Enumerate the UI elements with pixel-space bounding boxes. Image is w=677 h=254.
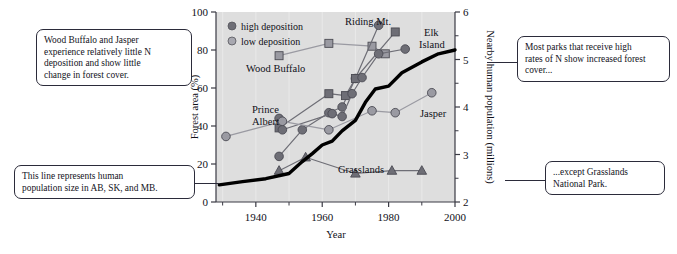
tick-label-right: 5 xyxy=(463,54,469,66)
data-marker-circle xyxy=(374,50,383,59)
x-axis-ticks: 1940196019802000 xyxy=(223,202,467,223)
data-marker-circle xyxy=(278,117,287,126)
legend-marker-low-deposition xyxy=(228,37,236,45)
leader-line-botleft xyxy=(193,183,219,184)
tick-label-left: 100 xyxy=(192,6,209,18)
tick-label-right: 2 xyxy=(463,196,469,208)
data-marker-circle xyxy=(348,89,357,98)
data-marker-square xyxy=(325,39,333,47)
series-label-elk-island: Island xyxy=(419,39,445,50)
callout-high-n-increased-cover: Most parks that receive high rates of N … xyxy=(517,36,670,82)
callout-population-line: This line represents human population si… xyxy=(14,165,195,199)
data-marker-square xyxy=(325,90,333,98)
tick-label-right: 6 xyxy=(463,6,469,18)
leader-line-topright xyxy=(487,62,519,63)
data-marker-circle xyxy=(358,73,367,82)
data-marker-circle xyxy=(427,88,436,97)
series-label-prince-albert: Prince xyxy=(252,104,279,115)
callout-line: deposition and show little xyxy=(44,58,184,70)
data-marker-circle xyxy=(325,126,334,135)
tick-label-x: 1940 xyxy=(245,211,268,223)
tick-label-x: 2000 xyxy=(444,211,467,223)
callout-grasslands-exception: ...except Grasslands National Park. xyxy=(545,161,665,195)
data-marker-circle xyxy=(222,132,231,141)
data-marker-circle xyxy=(328,109,337,118)
callout-line: experience relatively little N xyxy=(44,47,184,59)
figure-container: 020406080100 23456 1940196019802000 Wood… xyxy=(0,0,677,254)
data-marker-square xyxy=(391,28,399,36)
data-marker-circle xyxy=(368,107,377,116)
tick-label-left: 0 xyxy=(203,196,209,208)
tick-label-right: 3 xyxy=(463,149,469,161)
series-label-grasslands: Grasslands xyxy=(338,164,384,175)
leader-line-botright xyxy=(505,180,547,181)
data-marker-circle xyxy=(338,112,347,121)
tick-label-left: 80 xyxy=(197,44,209,56)
callout-line: Most parks that receive high xyxy=(525,42,662,54)
series-label-wood-buffalo: Wood Buffalo xyxy=(246,63,305,74)
data-marker-circle xyxy=(401,45,410,54)
tick-label-x: 1960 xyxy=(311,211,334,223)
series-label-jasper: Jasper xyxy=(420,108,447,119)
tick-label-x: 1980 xyxy=(378,211,401,223)
data-marker-circle xyxy=(278,126,287,135)
callout-line: cover... xyxy=(525,65,662,77)
series-label-elk-island: Elk xyxy=(424,27,439,38)
callout-wood-buffalo-jasper: Wood Buffalo and Jasper experience relat… xyxy=(36,29,192,86)
tick-label-left: 20 xyxy=(197,158,209,170)
y2-axis-title: Nearby human population (millions) xyxy=(484,30,496,184)
tick-label-right: 4 xyxy=(463,101,469,113)
callout-line: change in forest cover. xyxy=(44,70,184,82)
callout-line: population size in AB, SK, and MB. xyxy=(22,183,187,195)
callout-line: ...except Grasslands xyxy=(553,167,657,179)
callout-line: National Park. xyxy=(553,179,657,191)
right-axis-ticks: 23456 xyxy=(455,6,469,208)
x-axis-title: Year xyxy=(326,229,346,240)
data-marker-circle xyxy=(298,126,307,135)
y-axis-title: Forest area (%) xyxy=(189,74,201,139)
legend-label-low-deposition: low deposition xyxy=(241,36,300,47)
callout-line: This line represents human xyxy=(22,171,187,183)
legend-marker-high-deposition xyxy=(228,22,236,30)
callout-line: Wood Buffalo and Jasper xyxy=(44,35,184,47)
data-marker-square xyxy=(275,52,283,60)
data-marker-circle xyxy=(391,108,400,117)
data-marker-circle xyxy=(275,152,284,161)
legend-label-high-deposition: high deposition xyxy=(241,21,303,32)
series-label-prince-albert: Albert xyxy=(252,116,279,127)
callout-line: rates of N show increased forest xyxy=(525,54,662,66)
series-label-riding-mt: Riding Mt. xyxy=(345,16,391,27)
